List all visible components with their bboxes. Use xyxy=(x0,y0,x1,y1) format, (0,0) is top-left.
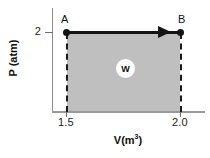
dashed-line-at-a xyxy=(66,33,68,112)
pv-diagram-figure: 2 1.5 2.0 A B W P (atm) V(m3) xyxy=(0,0,210,158)
x-axis-line xyxy=(52,111,205,113)
x-axis-title-close: ) xyxy=(139,134,143,146)
arrow-right-icon xyxy=(158,26,171,38)
data-point-a xyxy=(63,29,70,36)
point-label-a: A xyxy=(61,13,68,25)
x-axis-title-base: V(m xyxy=(114,134,135,146)
y-axis-title: P (atm) xyxy=(7,23,19,93)
x-axis-tick-label-1-5: 1.5 xyxy=(51,116,81,128)
point-label-b: B xyxy=(178,13,185,25)
x-axis-title: V(m3) xyxy=(78,134,178,146)
x-axis-tick-label-2-0: 2.0 xyxy=(165,116,195,128)
y-axis-line xyxy=(52,8,53,112)
data-point-b xyxy=(177,29,184,36)
dashed-line-at-b xyxy=(180,33,182,112)
work-label-badge: W xyxy=(116,59,135,78)
y-axis-tick-2 xyxy=(45,32,53,33)
y-axis-tick-label-2: 2 xyxy=(27,25,41,37)
